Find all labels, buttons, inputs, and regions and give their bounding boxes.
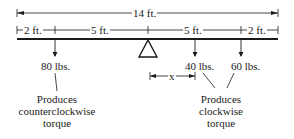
segment-label-1: 2 ft. bbox=[23, 24, 43, 36]
segment-dimensions bbox=[17, 26, 278, 34]
force-label-40: 40 lbs. bbox=[184, 60, 215, 72]
segment-label-2: 5 ft. bbox=[90, 24, 110, 36]
x-label: x bbox=[168, 70, 176, 82]
force-label-60: 60 lbs. bbox=[230, 60, 261, 72]
leader-line-60 bbox=[227, 73, 234, 88]
total-length-label: 14 ft. bbox=[132, 7, 157, 19]
segment-label-3: 5 ft. bbox=[183, 24, 203, 36]
segment-label-4: 2 ft. bbox=[247, 24, 267, 36]
fulcrum-triangle bbox=[139, 40, 157, 57]
caption-counterclockwise: Produces counterclockwise torque bbox=[15, 93, 99, 129]
caption-clockwise: Produces clockwise torque bbox=[190, 93, 252, 129]
force-label-80: 80 lbs. bbox=[40, 60, 71, 72]
leader-line-80 bbox=[55, 73, 57, 91]
leader-line-40 bbox=[203, 73, 215, 88]
